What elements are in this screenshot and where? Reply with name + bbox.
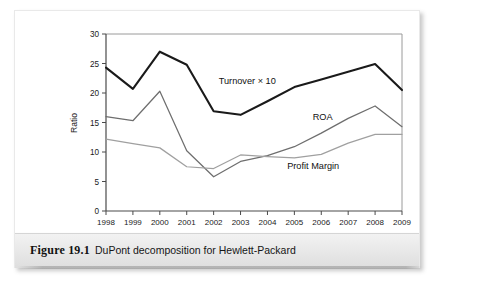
x-tick-label: 2000: [151, 218, 169, 227]
figure-caption: Figure 19.1DuPont decomposition for Hewl…: [30, 243, 296, 258]
y-tick-label: 10: [90, 148, 100, 157]
x-tick-label: 1999: [124, 218, 142, 227]
y-axis-title: Ratio: [69, 113, 79, 133]
x-tick-label: 1998: [97, 218, 115, 227]
y-tick-label: 0: [94, 207, 99, 216]
x-tick-label: 2005: [285, 218, 303, 227]
series-label: ROA: [313, 112, 334, 122]
series-line: [106, 134, 402, 168]
series-label: Turnover × 10: [219, 76, 276, 86]
x-tick-label: 2006: [312, 218, 330, 227]
x-tick-label: 2002: [205, 218, 223, 227]
y-tick-label: 20: [90, 89, 100, 98]
x-tick-label: 2007: [339, 218, 357, 227]
x-tick-label: 2001: [178, 218, 196, 227]
figure-caption-bar: Figure 19.1DuPont decomposition for Hewl…: [15, 233, 419, 268]
x-tick-label: 2004: [259, 218, 277, 227]
chart-region: 051015202530 199819992000200120022003200…: [15, 11, 419, 232]
y-tick-label: 15: [90, 119, 100, 128]
x-tick-label: 2008: [366, 218, 384, 227]
figure-caption-body: DuPont decomposition for Hewlett-Packard: [95, 244, 296, 256]
plot-frame: [106, 34, 402, 211]
series-label: Profit Margin: [287, 161, 339, 171]
y-tick-label: 30: [90, 30, 100, 39]
x-tick-label: 2009: [393, 218, 411, 227]
figure-caption-number: Figure 19.1: [30, 243, 90, 257]
figure-card: 051015202530 199819992000200120022003200…: [14, 10, 420, 268]
y-axis-ticks: 051015202530: [90, 30, 106, 216]
x-tick-label: 2003: [232, 218, 250, 227]
dupont-line-chart: 051015202530 199819992000200120022003200…: [15, 11, 419, 232]
card-shadow: [18, 266, 422, 269]
figure-page: 051015202530 199819992000200120022003200…: [0, 0, 479, 284]
x-axis-ticks: 1998199920002001200220032004200520062007…: [97, 211, 411, 227]
y-tick-label: 25: [90, 60, 100, 69]
series-line: [106, 91, 402, 177]
y-tick-label: 5: [94, 178, 99, 187]
series-lines: [106, 52, 402, 177]
